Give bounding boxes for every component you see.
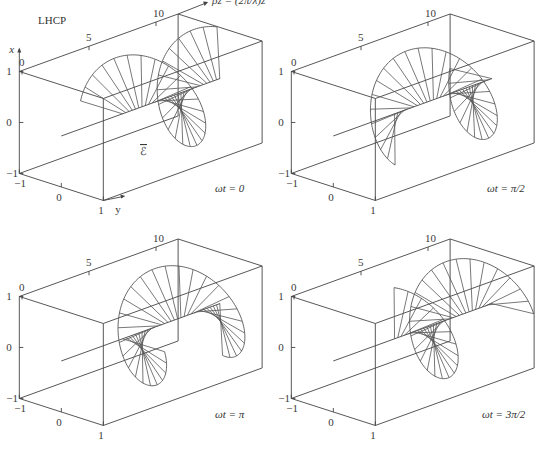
- axis-box: [19, 14, 262, 200]
- field-vector: [184, 270, 193, 317]
- field-vector: [119, 327, 155, 342]
- panel-wt-3pi-2: 051010−1−101 ωt = 3π/2: [272, 225, 543, 449]
- z-tick-label: 10: [153, 232, 165, 244]
- field-vector: [207, 308, 245, 343]
- z-axis-label: βz = (2π/λ)z: [211, 0, 266, 7]
- field-vector: [450, 69, 492, 79]
- y-tick-label: 1: [370, 204, 376, 216]
- arrowhead-icon: [203, 1, 208, 6]
- field-vector: [372, 94, 414, 106]
- panel-wt-0: 051010−1−101xβz = (2π/λ)zyℰ LHCP ωt = 0: [0, 0, 272, 225]
- z-tick-label: 5: [86, 256, 92, 268]
- field-vector: [102, 65, 132, 110]
- y-tick-label: 0: [56, 191, 62, 203]
- y-tick-label: 1: [98, 429, 104, 441]
- field-vector: [141, 55, 142, 106]
- field-vector: [437, 52, 446, 99]
- field-vector: [159, 88, 194, 104]
- field-vectors: [394, 259, 534, 379]
- figure-title: LHCP: [38, 14, 66, 26]
- y-tick-label: 0: [328, 416, 334, 428]
- z-tick-label: 10: [153, 7, 165, 19]
- x-tick-label: 0: [6, 341, 12, 353]
- field-vector: [220, 304, 223, 356]
- field-vector: [213, 306, 236, 356]
- z-tick-label: 5: [358, 256, 364, 268]
- field-vector: [168, 97, 205, 133]
- field-tip-helix: [370, 48, 497, 165]
- field-tip-helix: [394, 259, 534, 379]
- z-tick-label: 0: [19, 281, 25, 293]
- arrowhead-icon: [17, 47, 21, 52]
- field-vector: [217, 305, 230, 358]
- panel-caption: ωt = 0: [215, 182, 244, 194]
- field-vector: [114, 58, 136, 109]
- panel-wt-pi-2: 051010−1−101 ωt = π/2: [272, 0, 543, 225]
- box-edge: [375, 266, 534, 323]
- x-tick-label: 1: [278, 65, 284, 77]
- field-vector: [127, 55, 139, 108]
- field-vector: [395, 114, 396, 165]
- panel-wt-pi: 051010−1−101 ωt = π: [0, 225, 272, 449]
- field-vector: [179, 38, 210, 82]
- arrowhead-icon: [120, 194, 125, 198]
- field-vector: [492, 304, 534, 314]
- field-vector: [418, 48, 430, 101]
- field-vector: [178, 94, 191, 147]
- box-edge: [19, 116, 178, 173]
- field-vector: [375, 110, 404, 137]
- y-axis-label: y: [115, 203, 121, 215]
- panel-caption: ωt = 3π/2: [482, 408, 525, 420]
- field-vector: [411, 320, 446, 336]
- field-vector: [476, 262, 485, 309]
- field-vector: [179, 266, 181, 318]
- field-vector: [470, 259, 472, 311]
- box-edge: [450, 239, 534, 266]
- field-vector: [118, 326, 158, 328]
- z-tick-label: 10: [425, 232, 437, 244]
- y-tick-label: 1: [370, 429, 376, 441]
- field-vector: [169, 48, 207, 83]
- field-vector: [422, 280, 459, 315]
- box-edge: [450, 14, 534, 41]
- y-tick-label: −1: [14, 177, 26, 189]
- field-vector: [140, 277, 171, 322]
- field-vector: [427, 327, 449, 377]
- box-edge: [19, 296, 103, 323]
- box-edge: [291, 116, 450, 173]
- field-vector: [217, 27, 220, 79]
- field-vector: [372, 109, 408, 124]
- z-tick-label: 0: [19, 56, 25, 68]
- z-tick-label: 0: [291, 56, 297, 68]
- x-tick-label: 1: [6, 290, 11, 302]
- field-vector: [420, 329, 457, 365]
- field-vector: [432, 48, 433, 99]
- tick-labels: 051010−1−101: [6, 7, 164, 216]
- panel-caption: ωt = π: [215, 408, 244, 420]
- field-vector: [203, 27, 216, 80]
- y-tick-label: 1: [98, 204, 104, 216]
- field-vector: [443, 263, 466, 313]
- box-edge: [291, 296, 375, 323]
- z-tick-label: 10: [425, 7, 437, 19]
- x-axis-label: x: [8, 43, 14, 55]
- field-vector: [190, 31, 213, 81]
- z-tick-label: 5: [86, 31, 92, 43]
- field-vector: [459, 90, 496, 125]
- x-tick-label: 0: [278, 116, 284, 128]
- field-vector: [393, 58, 424, 103]
- field-vector: [405, 52, 427, 102]
- field-vector: [370, 108, 410, 109]
- x-tick-label: 0: [6, 116, 12, 128]
- z-tick-label: 5: [358, 31, 364, 43]
- y-tick-label: 0: [56, 416, 62, 428]
- y-tick-label: −1: [14, 402, 26, 414]
- box-edge: [291, 71, 375, 98]
- z-axis-arrow: [178, 3, 206, 14]
- box-edge: [178, 239, 262, 266]
- field-vector: [469, 87, 482, 140]
- field-vector: [152, 270, 174, 320]
- x-tick-label: 1: [6, 65, 11, 77]
- field-label: ℰ: [140, 145, 147, 157]
- field-vector: [411, 306, 453, 317]
